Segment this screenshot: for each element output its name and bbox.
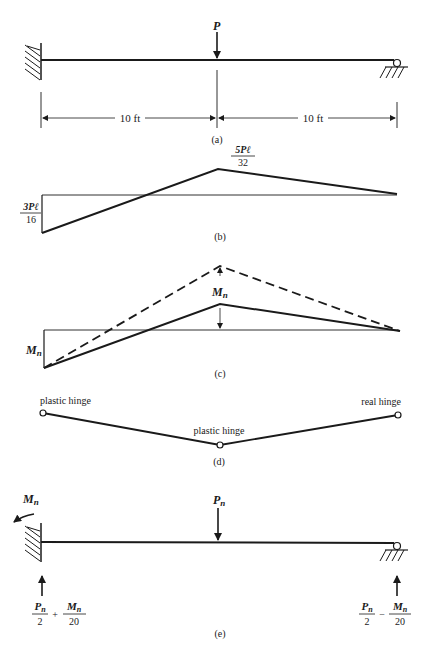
hinge-icon xyxy=(217,442,223,448)
hinge-icon xyxy=(40,410,46,416)
load-label: Pn xyxy=(213,493,225,508)
load-label: P xyxy=(213,19,221,33)
left-hinge-label: plastic hinge xyxy=(40,395,91,406)
part-d-mechanism: plastic hinge plastic hinge real hinge (… xyxy=(40,395,402,468)
right-hinge-label: real hinge xyxy=(361,396,401,407)
span-right-label: 10 ft xyxy=(303,112,323,124)
caption-e: (e) xyxy=(214,628,225,640)
negative-moment-num: 3Pℓ xyxy=(22,201,38,212)
part-b-moment-diagram: 5Pℓ 32 3Pℓ 16 (b) xyxy=(20,144,397,243)
moment-label: Mn xyxy=(22,492,39,507)
moment-arrow-icon xyxy=(14,514,34,522)
part-c-moment-diagram: Mn Mn (c) xyxy=(25,266,400,380)
caption-b: (b) xyxy=(214,231,226,243)
left-reaction-label: Pn 2 + Mn 20 xyxy=(32,600,86,627)
positive-moment-den: 32 xyxy=(238,157,248,168)
fixed-support-icon xyxy=(25,523,41,562)
part-e-free-body: Mn Pn Pn 2 + Mn 20 Pn 2 − Mn 20 (e) xyxy=(14,492,411,640)
roller-support-icon xyxy=(380,543,408,562)
beam xyxy=(41,542,394,543)
part-a-beam: P 10 ft 10 ft (a) xyxy=(25,19,408,146)
svg-text:20: 20 xyxy=(69,616,79,627)
left-moment-label: Mn xyxy=(25,343,42,358)
svg-text:Mn: Mn xyxy=(66,600,82,614)
svg-text:20: 20 xyxy=(395,616,405,627)
roller-support-icon xyxy=(380,60,408,79)
positive-moment-num: 5Pℓ xyxy=(235,144,250,155)
svg-text:−: − xyxy=(379,609,385,620)
mid-moment-label: Mn xyxy=(211,285,228,300)
hinge-icon xyxy=(395,412,401,418)
caption-a: (a) xyxy=(211,134,222,146)
svg-text:Pn: Pn xyxy=(34,600,46,614)
negative-moment-den: 16 xyxy=(26,214,36,225)
mid-hinge-label: plastic hinge xyxy=(194,425,245,436)
caption-d: (d) xyxy=(213,456,225,468)
right-reaction-label: Pn 2 − Mn 20 xyxy=(359,600,411,627)
caption-c: (c) xyxy=(214,368,225,380)
svg-text:Mn: Mn xyxy=(392,600,408,614)
svg-text:2: 2 xyxy=(365,616,370,627)
beam-analysis-figure: P 10 ft 10 ft (a) 5Pℓ 32 3Pℓ 16 (b) Mn M… xyxy=(0,0,429,649)
fixed-support-icon xyxy=(25,43,41,80)
svg-text:+: + xyxy=(52,609,58,620)
svg-text:Pn: Pn xyxy=(361,600,373,614)
span-left-label: 10 ft xyxy=(120,112,140,124)
svg-text:2: 2 xyxy=(38,616,43,627)
